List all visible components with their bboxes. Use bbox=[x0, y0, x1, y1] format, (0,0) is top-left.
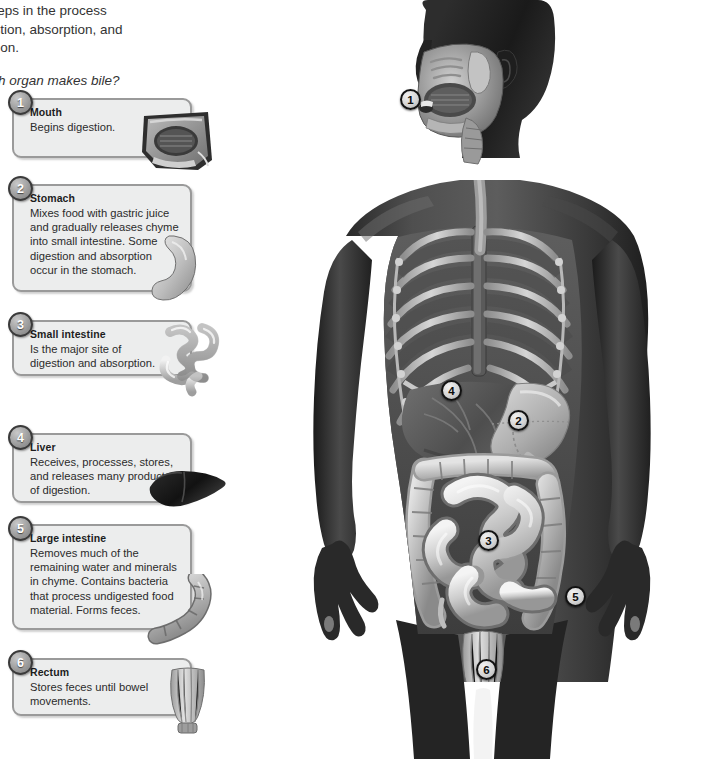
callout-body: Stores feces until bowel movements. bbox=[30, 680, 185, 708]
callout-large-intestine[interactable]: Large intestine Removes much of the rema… bbox=[4, 516, 229, 646]
rectum-icon bbox=[164, 666, 212, 740]
digestive-system-page: jor steps in the process digestion, abso… bbox=[0, 0, 728, 759]
callout-title: Large intestine bbox=[30, 532, 192, 545]
intro-text-block: jor steps in the process digestion, abso… bbox=[0, 2, 248, 90]
callout-title: Liver bbox=[30, 441, 190, 454]
callout-stomach[interactable]: Stomach Mixes food with gastric juice an… bbox=[4, 176, 219, 304]
figure-marker-5[interactable]: 5 bbox=[565, 586, 586, 607]
callout-title: Rectum bbox=[30, 666, 185, 679]
figure-marker-3[interactable]: 3 bbox=[478, 530, 499, 551]
callout-badge-4: 4 bbox=[8, 425, 33, 450]
anatomical-figure: 1 2 3 4 5 6 bbox=[228, 0, 728, 759]
human-torso-illustration bbox=[228, 0, 728, 759]
figure-marker-4[interactable]: 4 bbox=[441, 380, 462, 401]
callout-mouth[interactable]: Mouth Begins digestion. 1 bbox=[4, 90, 219, 168]
callout-text: Rectum Stores feces until bowel movement… bbox=[30, 666, 185, 708]
figure-marker-1[interactable]: 1 bbox=[400, 89, 421, 110]
intro-paragraph: jor steps in the process digestion, abso… bbox=[0, 2, 248, 58]
callout-badge-3: 3 bbox=[8, 312, 33, 337]
callout-badge-2: 2 bbox=[8, 176, 33, 201]
callout-badge-5: 5 bbox=[8, 516, 33, 541]
small-intestine-icon bbox=[156, 320, 228, 398]
mouth-sagittal-section-icon bbox=[138, 108, 216, 174]
callout-rectum[interactable]: Rectum Stores feces until bowel movement… bbox=[4, 650, 224, 750]
stomach-icon bbox=[144, 234, 206, 304]
large-intestine-icon bbox=[144, 574, 212, 646]
callout-title: Stomach bbox=[30, 192, 190, 205]
liver-icon bbox=[146, 467, 226, 517]
left-arm bbox=[313, 240, 372, 560]
callout-liver[interactable]: Liver Receives, processes, stores, and r… bbox=[4, 425, 224, 517]
callout-badge-6: 6 bbox=[8, 650, 33, 675]
callout-small-intestine[interactable]: Small intestine Is the major site of dig… bbox=[4, 312, 224, 400]
left-hand bbox=[314, 540, 379, 640]
callout-badge-1: 1 bbox=[8, 90, 33, 115]
figure-marker-6[interactable]: 6 bbox=[476, 659, 497, 680]
intro-question: Which organ makes bile? bbox=[0, 72, 248, 90]
figure-marker-2[interactable]: 2 bbox=[508, 410, 529, 431]
